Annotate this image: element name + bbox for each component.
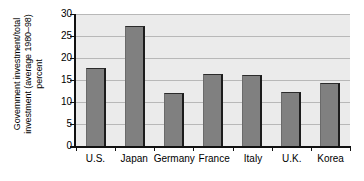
y-axis-title-text: Government investment/total investment (… xyxy=(12,14,45,133)
x-axis-tick-mark xyxy=(193,147,194,151)
bar-slot xyxy=(154,14,193,146)
x-axis-tick-marks xyxy=(76,147,350,151)
x-axis-tick-label: France xyxy=(195,152,234,168)
x-axis-tick-mark xyxy=(272,147,273,151)
x-axis-tick-label: Korea xyxy=(311,152,350,168)
plot-area xyxy=(76,14,350,146)
bar-slot xyxy=(193,14,232,146)
x-axis-tick-mark xyxy=(233,147,234,151)
x-axis-tick-mark xyxy=(76,147,77,151)
bar[interactable] xyxy=(125,26,145,146)
bar-slot xyxy=(233,14,272,146)
bar[interactable] xyxy=(86,68,106,146)
x-axis-tick-mark xyxy=(311,147,312,151)
x-axis-tick-mark xyxy=(350,147,351,151)
x-axis-tick-label: Japan xyxy=(115,152,154,168)
bar[interactable] xyxy=(203,74,223,146)
bar-chart-figure: Government investment/total investment (… xyxy=(0,0,364,181)
bar[interactable] xyxy=(320,83,340,146)
x-axis-tick-mark xyxy=(154,147,155,151)
x-axis-tick-label: U.S. xyxy=(76,152,115,168)
bar-slot xyxy=(115,14,154,146)
bars-layer xyxy=(76,14,350,146)
x-axis-tick-label: Germany xyxy=(154,152,195,168)
x-axis-tick-label: Italy xyxy=(234,152,273,168)
x-axis-tick-label: U.K. xyxy=(272,152,311,168)
y-axis-line xyxy=(74,14,76,147)
y-axis-tick-labels: 051015202530 xyxy=(44,14,72,146)
bar-slot xyxy=(76,14,115,146)
x-axis-tick-labels: U.S.JapanGermanyFranceItalyU.K.Korea xyxy=(76,152,350,168)
bar[interactable] xyxy=(242,75,262,146)
bar-slot xyxy=(311,14,350,146)
bar[interactable] xyxy=(281,92,301,146)
bar-slot xyxy=(272,14,311,146)
x-axis-tick-mark xyxy=(115,147,116,151)
bar[interactable] xyxy=(164,93,184,146)
